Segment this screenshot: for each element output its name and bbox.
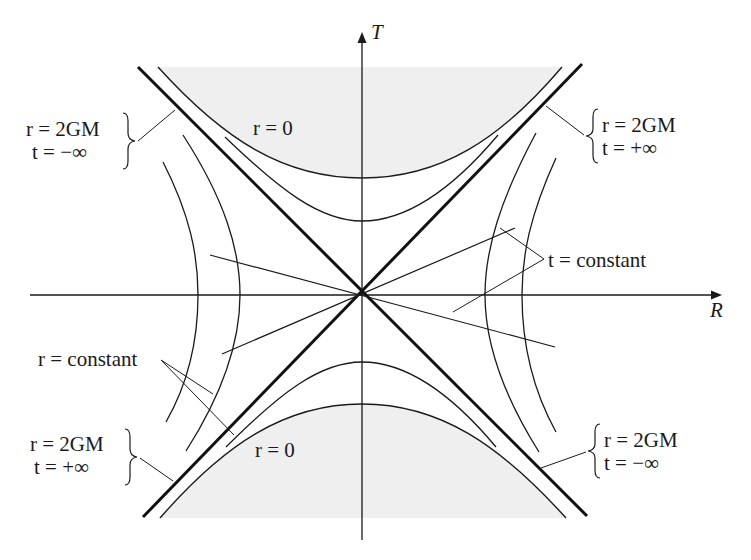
- r-constant-pointer-1: [161, 360, 213, 394]
- annotation-top-right-line1: r = 2GM: [602, 113, 676, 137]
- r-constant-curve-right-inner: [485, 133, 539, 452]
- brace-bottom-right: [588, 424, 600, 478]
- shaded-region-top: [158, 67, 562, 178]
- leader-top-right: [546, 106, 584, 135]
- t-constant-label: t = constant: [548, 248, 646, 272]
- t-constant-line-2: [222, 228, 515, 354]
- leader-bottom-right: [541, 452, 586, 468]
- t-axis-arrow-icon: [358, 32, 367, 43]
- leader-top-left: [138, 110, 175, 141]
- singularity-label-bottom: r = 0: [255, 438, 295, 462]
- brace-bottom-left: [125, 429, 137, 485]
- r-axis-label: R: [710, 298, 723, 322]
- leader-bottom-left: [140, 458, 173, 481]
- t-constant-pointer: [453, 228, 544, 312]
- annotation-bottom-right-line1: r = 2GM: [604, 428, 678, 452]
- r-constant-pointer-2: [161, 360, 234, 435]
- annotation-bottom-right-line2: t = −∞: [604, 451, 659, 475]
- r-constant-curve-left-outer: [163, 162, 198, 422]
- annotation-bottom-left-line1: r = 2GM: [30, 432, 104, 456]
- singularity-label-top: r = 0: [253, 116, 293, 140]
- t-axis-label: T: [371, 20, 383, 44]
- annotation-top-right-line2: t = +∞: [602, 136, 657, 160]
- diagram-graphics: [0, 0, 751, 560]
- annotation-top-left-line2: t = −∞: [32, 140, 87, 164]
- r-constant-curve-left-inner: [183, 135, 240, 451]
- r-constant-label: r = constant: [38, 347, 137, 371]
- brace-top-left: [123, 113, 135, 169]
- annotation-top-left-line1: r = 2GM: [26, 117, 100, 141]
- brace-top-right: [586, 109, 598, 163]
- kruskal-diagram: T R r = 0 r = 0 r = 2GM t = −∞ r = 2GM t…: [0, 0, 751, 560]
- annotation-bottom-left-line2: t = +∞: [34, 455, 89, 479]
